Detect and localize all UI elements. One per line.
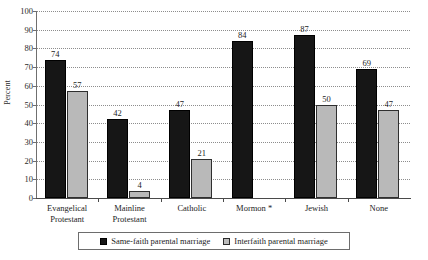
bar — [356, 69, 377, 198]
y-tick-mark-90 — [33, 30, 36, 31]
y-tick-label-60: 60 — [3, 81, 33, 91]
y-tick-label-10: 10 — [3, 174, 33, 184]
bar-value-label: 87 — [300, 24, 309, 34]
legend-label: Interfaith parental marriage — [234, 236, 327, 246]
y-tick-label-50: 50 — [3, 100, 33, 110]
y-tick-mark-50 — [33, 105, 36, 106]
y-tick-label-70: 70 — [3, 62, 33, 72]
gridline-30 — [36, 142, 410, 143]
legend-swatch-dark-icon — [100, 238, 107, 245]
gridline-50 — [36, 105, 410, 106]
bar — [378, 110, 399, 198]
bar — [169, 110, 190, 198]
gridline-10 — [36, 179, 410, 180]
x-category-label: None — [370, 203, 388, 214]
x-category-label: MainlineProtestant — [113, 203, 147, 224]
x-category-label: EvangelicalProtestant — [47, 203, 87, 224]
gridline-60 — [36, 86, 410, 87]
gridline-40 — [36, 123, 410, 124]
gridline-100 — [36, 11, 410, 12]
y-tick-mark-100 — [33, 11, 36, 12]
gridline-70 — [36, 67, 410, 68]
chart-legend: Same-faith parental marriageInterfaith p… — [78, 232, 350, 250]
x-category-label: Jewish — [305, 203, 328, 214]
y-tick-mark-70 — [33, 67, 36, 68]
y-tick-mark-30 — [33, 142, 36, 143]
x-tick-mark — [161, 198, 162, 202]
bar-value-label: 50 — [322, 94, 331, 104]
bar — [107, 119, 128, 198]
bar-value-label: 57 — [73, 80, 82, 90]
x-tick-mark — [348, 198, 349, 202]
bar-value-label: 47 — [385, 99, 394, 109]
bar-value-label: 42 — [113, 108, 122, 118]
y-tick-mark-10 — [33, 179, 36, 180]
bar — [294, 35, 315, 198]
legend-item[interactable]: Interfaith parental marriage — [223, 236, 327, 246]
gridline-20 — [36, 161, 410, 162]
x-category-label: Mormon * — [236, 203, 272, 214]
legend-label: Same-faith parental marriage — [111, 236, 210, 246]
y-tick-label-0: 0 — [3, 193, 33, 203]
bar — [316, 105, 337, 199]
bar — [45, 60, 66, 198]
bar-value-label: 21 — [198, 148, 207, 158]
y-tick-label-30: 30 — [3, 137, 33, 147]
x-tick-mark — [98, 198, 99, 202]
bar-value-label: 4 — [137, 180, 141, 190]
bar-chart-figure: Percent 0102030405060708090100 745742447… — [0, 0, 428, 260]
bar — [67, 91, 88, 198]
bar-value-label: 84 — [238, 30, 247, 40]
y-tick-label-40: 40 — [3, 118, 33, 128]
bar-value-label: 69 — [363, 58, 372, 68]
y-axis-line — [36, 11, 37, 199]
x-tick-mark — [285, 198, 286, 202]
y-tick-mark-0 — [33, 198, 36, 199]
bar — [191, 159, 212, 198]
y-tick-mark-40 — [33, 123, 36, 124]
plot-area: 745742447218487506947 — [36, 11, 410, 198]
bar — [129, 191, 150, 198]
bar-value-label: 47 — [176, 99, 185, 109]
y-tick-mark-20 — [33, 161, 36, 162]
gridline-90 — [36, 30, 410, 31]
y-tick-mark-80 — [33, 48, 36, 49]
x-tick-mark — [223, 198, 224, 202]
y-tick-label-100: 100 — [3, 6, 33, 16]
y-tick-label-20: 20 — [3, 156, 33, 166]
y-axis-tick-labels: 0102030405060708090100 — [0, 11, 33, 198]
bar — [232, 41, 253, 198]
legend-swatch-light-icon — [223, 238, 230, 245]
y-tick-mark-60 — [33, 86, 36, 87]
y-tick-label-90: 90 — [3, 25, 33, 35]
bar-value-label: 74 — [51, 49, 60, 59]
y-tick-label-80: 80 — [3, 43, 33, 53]
gridline-80 — [36, 48, 410, 49]
legend-item[interactable]: Same-faith parental marriage — [100, 236, 210, 246]
x-category-label: Catholic — [177, 203, 206, 214]
